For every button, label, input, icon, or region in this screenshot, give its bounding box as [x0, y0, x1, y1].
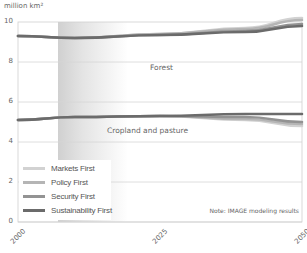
y-tick-label: 4	[3, 137, 13, 145]
y-tick-label: 8	[3, 57, 13, 65]
legend-swatch	[23, 167, 45, 170]
legend-item-policy-first: Policy First	[23, 176, 88, 188]
legend-swatch	[23, 181, 45, 184]
legend-swatch	[23, 209, 45, 212]
legend-item-markets-first: Markets First	[23, 162, 95, 174]
note-text: Note: IMAGE modeling results	[210, 207, 299, 214]
cropland-label: Cropland and pasture	[107, 126, 188, 135]
y-tick-label: 6	[3, 97, 13, 105]
legend: Markets First Policy First Security Firs…	[19, 160, 111, 220]
y-axis-unit: million km²	[4, 2, 43, 10]
legend-item-security-first: Security First	[23, 190, 95, 202]
forest-label: Forest	[150, 63, 173, 72]
legend-swatch	[23, 195, 45, 198]
y-tick-label: 10	[3, 17, 13, 25]
legend-item-sustainability-first: Sustainability First	[23, 204, 112, 216]
y-tick-label: 0	[3, 217, 13, 225]
y-tick-label: 2	[3, 177, 13, 185]
